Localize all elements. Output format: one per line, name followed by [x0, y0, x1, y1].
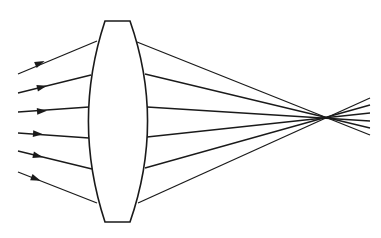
lens-diagram: [0, 0, 381, 238]
refracted-ray: [137, 42, 370, 135]
incident-ray: [18, 107, 89, 112]
incident-ray: [18, 172, 97, 203]
ray-direction-arrows: [30, 58, 48, 184]
refracted-ray: [145, 74, 370, 128]
arrowhead-icon: [30, 174, 42, 184]
incident-ray: [18, 151, 92, 169]
incident-ray: [18, 75, 91, 93]
refracted-rays: [137, 42, 370, 203]
convex-lens: [88, 21, 147, 222]
arrowhead-icon: [33, 130, 43, 137]
arrowhead-icon: [37, 107, 47, 114]
arrowhead-icon: [32, 152, 43, 161]
incident-ray: [18, 41, 97, 74]
incident-ray: [18, 133, 89, 138]
refracted-ray: [147, 113, 370, 137]
incident-rays: [18, 41, 97, 203]
arrowhead-icon: [36, 83, 47, 92]
